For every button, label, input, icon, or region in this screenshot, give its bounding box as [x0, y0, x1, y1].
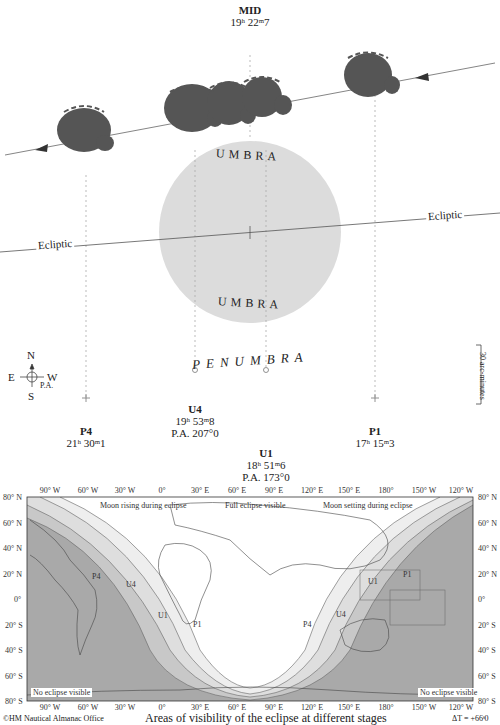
compass-s: S: [28, 390, 34, 402]
credit: ©HM Nautical Almanac Office: [3, 714, 104, 723]
scale-label: 30 arc-minutes: [478, 352, 487, 400]
compass-e: E: [8, 371, 15, 383]
label-full-visible: Full eclipse visible: [225, 501, 285, 510]
band-p1-right: P1: [403, 570, 411, 579]
band-p4-left: P4: [92, 572, 100, 581]
band-u4-right: U4: [336, 610, 346, 619]
map-title: Areas of visibility of the eclipse at di…: [145, 711, 387, 725]
contact-u4: U4 19ʰ 53ᵐ8 P.A. 207°0: [171, 403, 219, 439]
contact-u1: U1 18ʰ 51ᵐ6 P.A. 173°0: [242, 447, 290, 483]
label-moon-rising: Moon rising during eclipse: [100, 501, 186, 510]
eclipse-path-diagram: [0, 0, 500, 460]
band-p1-center: P1: [193, 620, 201, 629]
moon-p1: [344, 53, 400, 97]
label-no-eclipse-right: No eclipse visible: [418, 688, 479, 697]
band-u4-left: U4: [126, 580, 136, 589]
compass-pa: P.A.: [40, 381, 53, 390]
delta-t: ΔT = +66ˢ0: [452, 714, 489, 723]
contact-p1: P1 17ʰ 15ᵐ3: [355, 425, 394, 449]
arrow-left-icon: [35, 144, 48, 152]
moon-p4: [57, 108, 114, 152]
label-moon-setting: Moon setting during eclipse: [323, 501, 413, 510]
moon-u4: [242, 77, 292, 117]
compass-n: N: [27, 349, 35, 361]
band-p4-center: P4: [303, 620, 311, 629]
mid-label: MID 19ʰ 22ᵐ7: [230, 4, 269, 28]
mid-time: 19ʰ 22ᵐ7: [230, 16, 269, 28]
band-u1-right: U1: [368, 577, 378, 586]
label-no-eclipse-left: No eclipse visible: [31, 688, 92, 697]
band-u1-left: U1: [158, 611, 168, 620]
contact-p4: P4 21ʰ 30ᵐ1: [66, 425, 105, 449]
arrow-right-icon: [415, 73, 429, 81]
mid-title: MID: [239, 4, 262, 16]
